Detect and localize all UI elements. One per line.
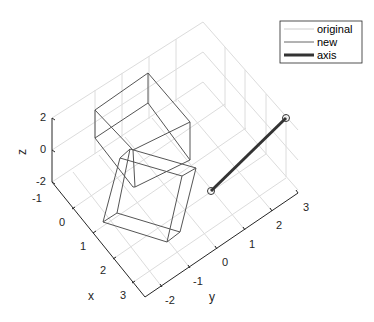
z-axis-label: z [15, 149, 29, 155]
legend-axis-label: axis [317, 49, 337, 61]
y-tick: -2 [165, 294, 175, 306]
z-tick-labels: 2 0 -2 [36, 111, 46, 187]
y-tick: 3 [303, 201, 309, 213]
x-tick-labels: -1 0 1 2 3 [32, 192, 126, 301]
legend-original-label: original [317, 23, 352, 35]
x-tick: 1 [80, 240, 86, 252]
y-tick: 1 [249, 238, 255, 250]
y-tick-labels: -2 -1 0 1 2 3 [165, 201, 309, 306]
grid-lines [52, 22, 298, 287]
x-tick: 0 [59, 216, 65, 228]
x-tick: 2 [100, 264, 106, 276]
z-tick-neg2: -2 [36, 175, 46, 187]
y-axis-line [145, 193, 298, 297]
x-axis-line [52, 182, 145, 297]
y-axis-label: y [209, 290, 215, 304]
z-tick-2: 2 [40, 111, 46, 123]
y-tick: 0 [222, 256, 228, 268]
legend-new-label: new [317, 36, 337, 48]
z-tick-0: 0 [40, 143, 46, 155]
x-axis-label: x [88, 289, 94, 303]
x-tick: -1 [32, 192, 42, 204]
y-tick: -1 [193, 275, 203, 287]
legend: original new axis [280, 21, 362, 63]
chart-figure: 2 0 -2 z -1 0 1 2 3 x -2 -1 0 1 2 3 y or… [0, 0, 374, 322]
y-tick: 2 [276, 219, 282, 231]
x-tick: 3 [120, 289, 126, 301]
